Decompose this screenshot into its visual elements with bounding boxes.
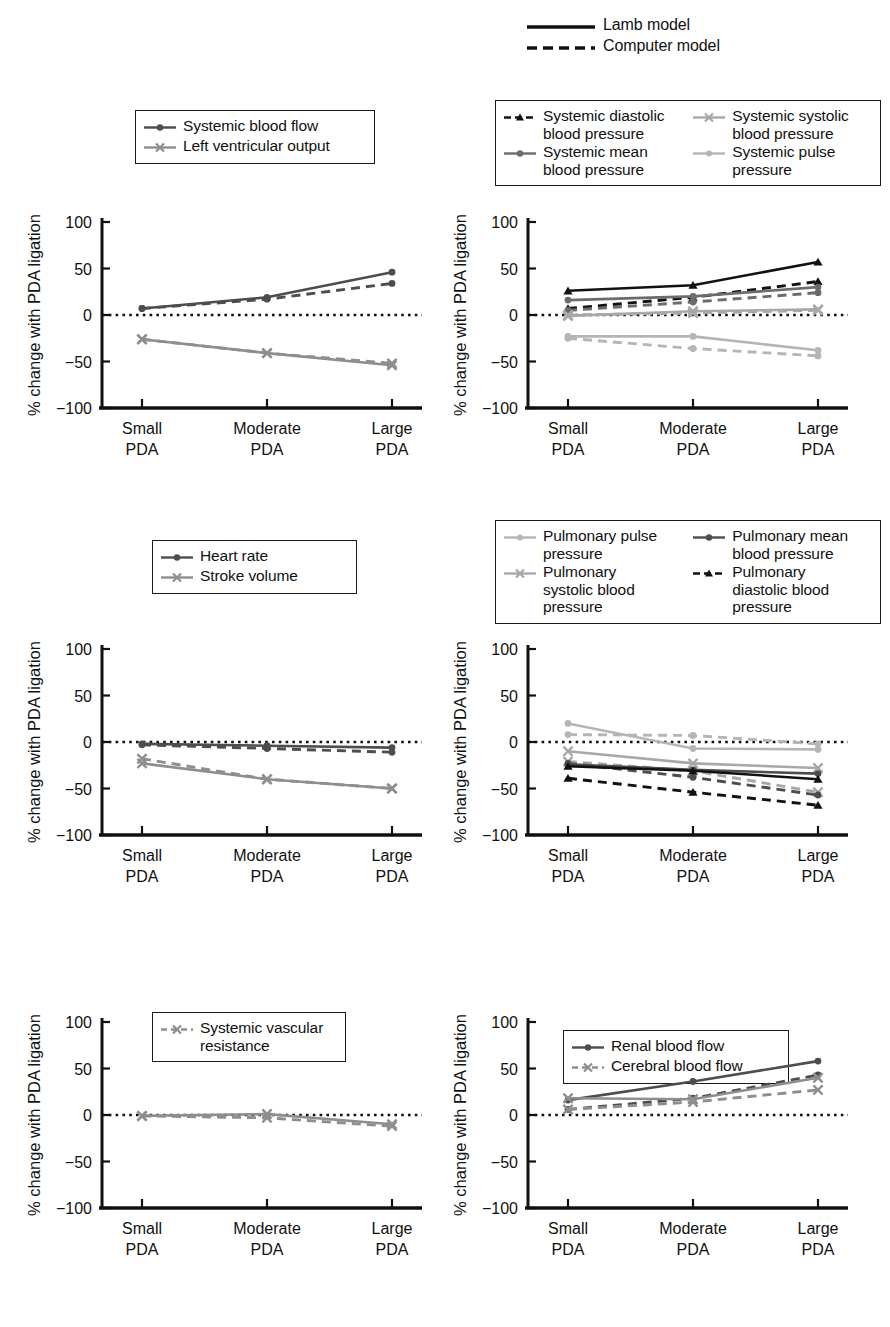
y-axis-label: % change with PDA ligation	[451, 641, 469, 843]
x-tick-label: LargePDA	[372, 847, 413, 885]
model-legend-item-computer: Computer model	[525, 37, 720, 56]
legend-item: Systemic blood flow	[143, 117, 366, 136]
data-point-marker	[389, 749, 396, 756]
legend-item: Pulmonary pulse pressure	[503, 527, 692, 562]
triangle-dashed-line-icon	[503, 109, 537, 126]
legend-row: Pulmonary pulse pressure Pulmonary mean …	[503, 527, 872, 562]
legend-label: Systemic diastolic blood pressure	[543, 107, 664, 142]
legend-item: Systemic mean blood pressure	[503, 143, 692, 178]
y-tick-label: 50	[74, 688, 92, 705]
plot-pulmonary-pressure: % change with PDA ligation100500−50−100S…	[448, 627, 860, 902]
x-tick-label: LargePDA	[798, 420, 839, 458]
model-legend: Lamb model Computer model	[525, 14, 720, 58]
y-tick-label: −100	[56, 400, 92, 417]
y-tick-label: 100	[65, 641, 92, 658]
cross-solid-line-icon	[692, 109, 726, 126]
line-dashed-icon	[525, 39, 597, 56]
data-point-marker	[690, 1078, 697, 1085]
y-tick-label: 50	[500, 1061, 518, 1078]
line-solid-icon	[525, 18, 597, 35]
circle-solid-line-icon	[692, 529, 726, 546]
legend-panel-systemic-flow: Systemic blood flow Left ventricular out…	[135, 110, 375, 164]
series-line	[142, 272, 392, 308]
legend-item: Pulmonary mean blood pressure	[692, 527, 872, 562]
legend-label: Pulmonary pulse pressure	[543, 527, 657, 562]
data-point-marker	[690, 299, 697, 306]
legend-label: Left ventricular output	[183, 137, 330, 155]
circle-solid-line-icon	[160, 549, 194, 566]
legend-label: Pulmonary diastolic blood pressure	[732, 563, 829, 616]
legend-label: Systemic mean blood pressure	[543, 143, 648, 178]
model-legend-label: Lamb model	[603, 16, 690, 34]
y-tick-label: 100	[65, 1014, 92, 1031]
chart-panel-organ-blood-flow: % change with PDA ligation100500−50−100S…	[448, 1000, 860, 1275]
circle-solid-line-icon	[503, 145, 537, 162]
y-tick-label: −100	[56, 1200, 92, 1217]
y-tick-label: −100	[482, 400, 518, 417]
legend-panel-pulmonary-pressure: Pulmonary pulse pressure Pulmonary mean …	[495, 520, 881, 624]
y-tick-label: 0	[83, 307, 92, 324]
x-tick-label: SmallPDA	[122, 847, 162, 885]
data-point-marker	[565, 731, 572, 738]
legend-item: Pulmonary systolic blood pressure	[503, 563, 692, 616]
y-tick-label: 100	[491, 641, 518, 658]
y-tick-label: −50	[65, 1154, 92, 1171]
data-point-marker	[690, 732, 697, 739]
x-tick-label: ModeratePDA	[659, 420, 727, 458]
x-tick-label: ModeratePDA	[233, 1220, 301, 1258]
y-tick-label: 0	[509, 307, 518, 324]
data-point-marker	[389, 269, 396, 276]
legend-item: Left ventricular output	[143, 137, 366, 156]
legend-row: Pulmonary systolic blood pressure Pulmon…	[503, 563, 872, 616]
legend-label: Heart rate	[200, 547, 268, 565]
y-tick-label: 100	[65, 214, 92, 231]
y-tick-label: 0	[83, 734, 92, 751]
data-point-marker	[690, 774, 697, 781]
legend-item: Pulmonary diastolic blood pressure	[692, 563, 872, 616]
x-tick-label: LargePDA	[798, 1220, 839, 1258]
legend-label: Systemic systolic blood pressure	[732, 107, 848, 142]
x-tick-label: SmallPDA	[122, 420, 162, 458]
model-legend-label: Computer model	[603, 37, 720, 55]
series-line	[142, 759, 392, 789]
legend-panel-systemic-pressure: Systemic diastolic blood pressure System…	[495, 100, 881, 186]
y-tick-label: −100	[482, 827, 518, 844]
data-point-marker	[389, 280, 396, 287]
data-point-marker	[815, 792, 822, 799]
y-tick-label: −50	[491, 354, 518, 371]
legend-label: Stroke volume	[200, 567, 298, 585]
y-axis-label: % change with PDA ligation	[451, 214, 469, 416]
data-point-marker	[565, 335, 572, 342]
y-axis-label: % change with PDA ligation	[451, 1014, 469, 1216]
data-point-marker	[815, 289, 822, 296]
data-point-marker	[565, 720, 572, 727]
chart-panel-systemic-vascular-resistance: % change with PDA ligation100500−50−100S…	[22, 1000, 434, 1275]
x-tick-label: ModeratePDA	[233, 420, 301, 458]
y-tick-label: 50	[74, 1061, 92, 1078]
x-tick-label: SmallPDA	[548, 847, 588, 885]
legend-item: Systemic diastolic blood pressure	[503, 107, 692, 142]
data-point-marker	[139, 305, 146, 312]
x-tick-label: LargePDA	[372, 420, 413, 458]
plot-systemic-flow: % change with PDA ligation100500−50−100S…	[22, 200, 434, 475]
x-tick-label: ModeratePDA	[659, 1220, 727, 1258]
data-point-marker	[264, 745, 271, 752]
data-point-marker	[264, 296, 271, 303]
series-line	[142, 339, 392, 363]
y-tick-label: 50	[500, 688, 518, 705]
data-point-marker	[815, 740, 822, 747]
legend-item: Systemic pulse pressure	[692, 143, 872, 178]
cross-solid-line-icon	[503, 565, 537, 582]
legend-item: Systemic systolic blood pressure	[692, 107, 872, 142]
cross-solid-line-icon	[143, 139, 177, 156]
y-tick-label: −50	[491, 781, 518, 798]
y-tick-label: 100	[491, 1014, 518, 1031]
legend-item: Stroke volume	[160, 567, 348, 586]
data-point-marker	[690, 345, 697, 352]
plot-heart-rate: % change with PDA ligation100500−50−100S…	[22, 627, 434, 902]
y-tick-label: 0	[83, 1107, 92, 1124]
plot-organ-blood-flow: % change with PDA ligation100500−50−100S…	[448, 1000, 860, 1275]
legend-label: Pulmonary mean blood pressure	[732, 527, 848, 562]
y-axis-label: % change with PDA ligation	[25, 1014, 43, 1216]
data-point-marker	[690, 333, 697, 340]
